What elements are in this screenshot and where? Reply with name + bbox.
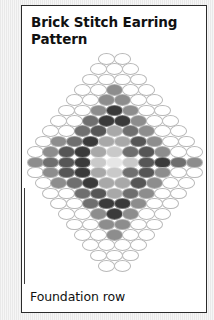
bead-row [98,260,130,272]
bead [98,260,115,272]
bead-chart [22,53,205,271]
page-background: Brick Stitch Earring Pattern Foundation … [0,0,214,320]
pattern-card: Brick Stitch Earring Pattern Foundation … [21,5,207,313]
foundation-row-line [24,188,25,284]
page-title: Brick Stitch Earring Pattern [31,14,197,49]
foundation-row-label: Foundation row [30,289,125,304]
bead [114,260,131,272]
